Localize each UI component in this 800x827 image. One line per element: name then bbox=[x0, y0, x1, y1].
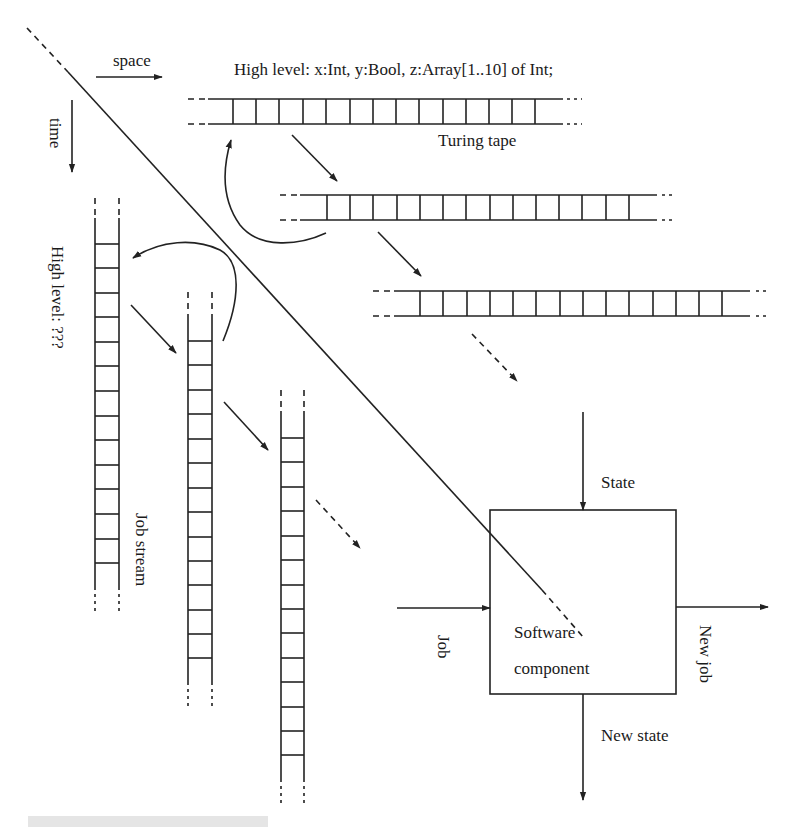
space-axis: space bbox=[96, 51, 162, 77]
component-label-line1: Software bbox=[514, 623, 575, 642]
horizontal-tape-3 bbox=[373, 291, 770, 316]
turing-tape-label: Turing tape bbox=[438, 131, 516, 150]
turing-high-level-label: High level: x:Int, y:Bool, z:Array[1..10… bbox=[234, 60, 553, 79]
time-label: time bbox=[46, 118, 65, 148]
stream-step-arrow-1 bbox=[131, 305, 176, 353]
state-label: State bbox=[601, 473, 635, 492]
job-stream-high-level-label: High level: ??? bbox=[48, 246, 67, 349]
figure-caption-clipped bbox=[28, 816, 268, 827]
curved-arrow-to-stream bbox=[133, 242, 236, 341]
tape-step-arrow-2 bbox=[378, 232, 421, 276]
horizontal-tape-2 bbox=[280, 195, 676, 220]
diagonal-divider bbox=[27, 28, 584, 638]
new-job-label: New job bbox=[696, 625, 715, 683]
horizontal-tape-1 bbox=[188, 99, 582, 124]
new-state-label: New state bbox=[601, 726, 669, 745]
tape-step-arrow-dashed bbox=[472, 334, 517, 381]
stream-step-arrow-2 bbox=[224, 402, 268, 450]
curved-arrow-to-tape bbox=[225, 140, 326, 243]
component-label-line2: component bbox=[514, 659, 590, 678]
stream-step-arrow-dashed bbox=[316, 500, 360, 548]
space-label: space bbox=[113, 51, 151, 70]
job-stream-label: Job stream bbox=[132, 513, 151, 586]
job-label: Job bbox=[434, 635, 453, 659]
vertical-tape-1 bbox=[95, 198, 119, 612]
tape-step-arrow-1 bbox=[292, 135, 337, 181]
time-axis: time bbox=[46, 100, 72, 172]
vertical-tape-2 bbox=[188, 292, 212, 706]
diagram-canvas: space time High level: x:Int, y:Bool, z:… bbox=[0, 0, 800, 827]
vertical-tape-3 bbox=[281, 390, 304, 803]
